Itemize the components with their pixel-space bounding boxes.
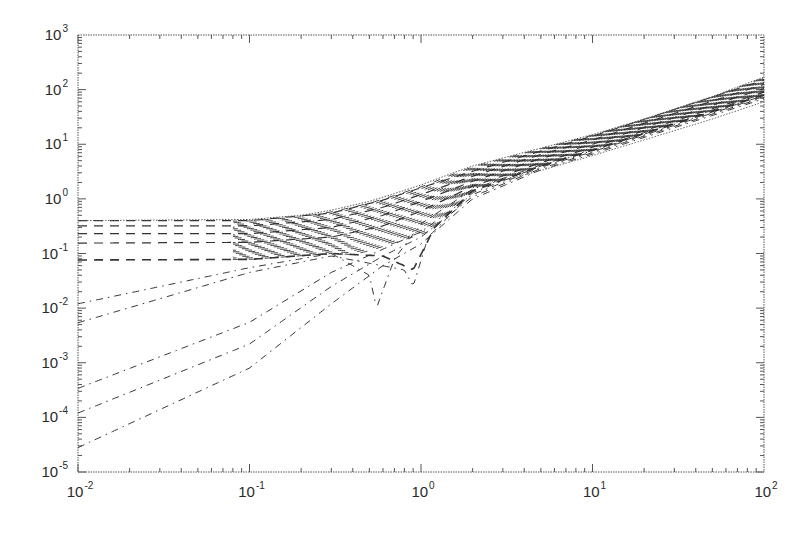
series-plateau-1 xyxy=(78,80,764,221)
y-tick-exponent: 1 xyxy=(62,132,68,143)
x-tick-label: 10-1 xyxy=(222,482,282,500)
y-tick-label: 10-5 xyxy=(12,462,68,480)
y-tick-exponent: -4 xyxy=(59,405,68,416)
band-curve xyxy=(233,83,764,232)
y-tick-exponent: 2 xyxy=(62,78,68,89)
y-tick-base: 10 xyxy=(41,408,58,425)
x-tick-exponent: 1 xyxy=(601,480,607,491)
x-tick-label: 102 xyxy=(736,482,796,500)
y-tick-base: 10 xyxy=(45,26,62,43)
band-curve xyxy=(233,94,764,258)
x-tick-base: 10 xyxy=(754,483,771,500)
band-curve xyxy=(233,86,764,240)
band-curve xyxy=(233,78,764,221)
y-tick-base: 10 xyxy=(45,190,62,207)
series-plateau-3 xyxy=(78,89,764,234)
x-tick-base: 10 xyxy=(411,483,428,500)
y-tick-base: 10 xyxy=(41,245,58,262)
band-curve xyxy=(233,81,764,229)
band-curve xyxy=(233,92,764,252)
y-tick-exponent: 0 xyxy=(62,187,68,198)
x-tick-base: 10 xyxy=(238,483,255,500)
y-tick-label: 100 xyxy=(12,189,68,207)
y-tick-base: 10 xyxy=(41,463,58,480)
x-tick-base: 10 xyxy=(67,483,84,500)
y-tick-exponent: 3 xyxy=(62,23,68,34)
x-tick-exponent: 2 xyxy=(772,480,778,491)
y-tick-label: 102 xyxy=(12,80,68,98)
plot-area xyxy=(0,0,805,533)
y-tick-label: 103 xyxy=(12,25,68,43)
x-tick-exponent: 0 xyxy=(429,480,435,491)
x-tick-label: 10-2 xyxy=(50,482,110,500)
y-tick-exponent: -5 xyxy=(59,460,68,471)
band-curve xyxy=(233,89,764,246)
log-log-line-chart xyxy=(0,0,805,533)
x-tick-exponent: -2 xyxy=(84,480,93,491)
y-tick-exponent: -2 xyxy=(59,296,68,307)
y-tick-label: 10-4 xyxy=(12,407,68,425)
band-curve xyxy=(233,82,764,230)
y-tick-label: 10-1 xyxy=(12,244,68,262)
x-tick-label: 100 xyxy=(393,482,453,500)
series-power-law-1 xyxy=(78,94,764,306)
x-tick-base: 10 xyxy=(583,483,600,500)
x-tick-label: 101 xyxy=(565,482,625,500)
y-tick-base: 10 xyxy=(41,354,58,371)
y-tick-exponent: -1 xyxy=(59,242,68,253)
band-curve xyxy=(233,79,764,224)
band-curve xyxy=(233,78,764,222)
band-curve xyxy=(233,80,764,226)
upper-envelope-line xyxy=(78,77,764,221)
y-tick-label: 10-2 xyxy=(12,298,68,316)
y-tick-base: 10 xyxy=(45,135,62,152)
y-tick-label: 101 xyxy=(12,134,68,152)
x-tick-exponent: -1 xyxy=(256,480,265,491)
series-plateau-2 xyxy=(78,84,764,226)
y-tick-base: 10 xyxy=(41,299,58,316)
y-tick-label: 10-3 xyxy=(12,353,68,371)
y-tick-exponent: -3 xyxy=(59,351,68,362)
y-tick-base: 10 xyxy=(45,81,62,98)
band-curve xyxy=(233,81,764,228)
dense-band xyxy=(233,78,764,260)
series-power-law-5 xyxy=(78,99,764,448)
